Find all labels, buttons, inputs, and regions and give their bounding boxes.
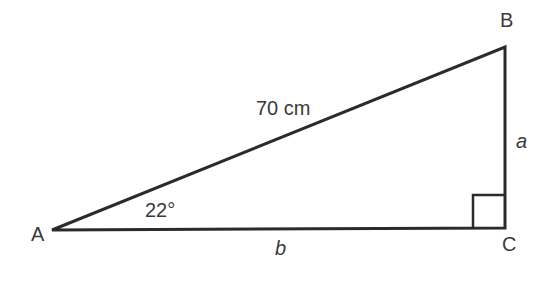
- vertex-label-a: A: [31, 223, 45, 245]
- angle-label: 22°: [145, 199, 175, 221]
- triangle-shape: [52, 47, 505, 230]
- vertex-label-b: B: [500, 9, 513, 31]
- triangle-diagram: A B C 22° 70 cm a b: [0, 0, 549, 286]
- right-angle-marker: [473, 195, 505, 228]
- side-a-label: a: [516, 130, 527, 152]
- hypotenuse-label: 70 cm: [256, 97, 310, 119]
- side-b-label: b: [275, 237, 286, 259]
- vertex-label-c: C: [502, 233, 516, 255]
